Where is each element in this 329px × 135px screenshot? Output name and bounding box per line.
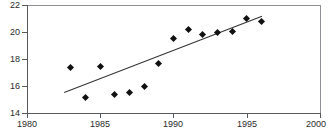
x-axis-line xyxy=(27,113,321,114)
y-axis-line xyxy=(27,5,28,114)
y-tick-label-14: 14 xyxy=(0,109,20,118)
data-point xyxy=(126,89,133,96)
scatter-chart: Figure 1. Average pumpkin yield per acre… xyxy=(0,0,329,135)
data-point xyxy=(67,64,74,71)
data-point xyxy=(82,94,89,101)
data-point xyxy=(155,60,162,67)
x-tick-2000 xyxy=(320,113,321,118)
x-tick-1980 xyxy=(27,113,28,118)
data-point xyxy=(170,35,177,42)
y-tick-label-16: 16 xyxy=(0,82,20,91)
data-point xyxy=(141,82,148,89)
x-tick-label-1980: 1980 xyxy=(7,120,47,129)
data-point xyxy=(97,63,104,70)
y-tick-20 xyxy=(22,32,27,33)
plot-frame-right xyxy=(320,5,321,114)
y-tick-16 xyxy=(22,86,27,87)
data-point xyxy=(214,29,221,36)
y-tick-18 xyxy=(22,59,27,60)
x-tick-label-1985: 1985 xyxy=(80,120,120,129)
x-tick-label-2000: 2000 xyxy=(296,120,329,129)
plot-frame-top xyxy=(27,5,321,6)
x-tick-label-1990: 1990 xyxy=(153,120,193,129)
y-tick-label-22: 22 xyxy=(0,1,20,10)
y-tick-22 xyxy=(22,5,27,6)
x-tick-label-1995: 1995 xyxy=(227,120,267,129)
x-tick-1985 xyxy=(100,113,101,118)
y-tick-label-18: 18 xyxy=(0,55,20,64)
x-tick-1990 xyxy=(173,113,174,118)
y-tick-label-20: 20 xyxy=(0,28,20,37)
data-point xyxy=(185,26,192,33)
data-point xyxy=(111,91,118,98)
data-point xyxy=(258,18,265,25)
x-tick-1995 xyxy=(247,113,248,118)
